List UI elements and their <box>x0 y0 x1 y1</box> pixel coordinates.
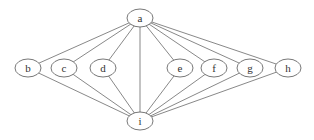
node-label: f <box>212 62 216 74</box>
node-label: i <box>138 115 141 127</box>
node-label: c <box>62 62 67 74</box>
node-label: g <box>247 62 253 74</box>
node-label: e <box>178 62 183 74</box>
node-label: h <box>285 62 291 74</box>
edge-a-g <box>140 18 250 68</box>
edge-b-i <box>28 68 140 121</box>
graph-diagram: abcdefghi <box>0 0 314 140</box>
node-b: b <box>15 59 41 77</box>
node-e: e <box>167 59 193 77</box>
node-a: a <box>127 9 153 27</box>
edge-g-i <box>140 68 250 121</box>
node-label: a <box>138 12 143 24</box>
node-f: f <box>201 59 227 77</box>
nodes: abcdefghi <box>15 9 301 130</box>
node-d: d <box>90 59 116 77</box>
edge-a-b <box>28 18 140 68</box>
node-g: g <box>237 59 263 77</box>
node-i: i <box>127 112 153 130</box>
node-label: b <box>25 62 31 74</box>
node-label: d <box>100 62 106 74</box>
node-c: c <box>51 59 77 77</box>
node-h: h <box>275 59 301 77</box>
